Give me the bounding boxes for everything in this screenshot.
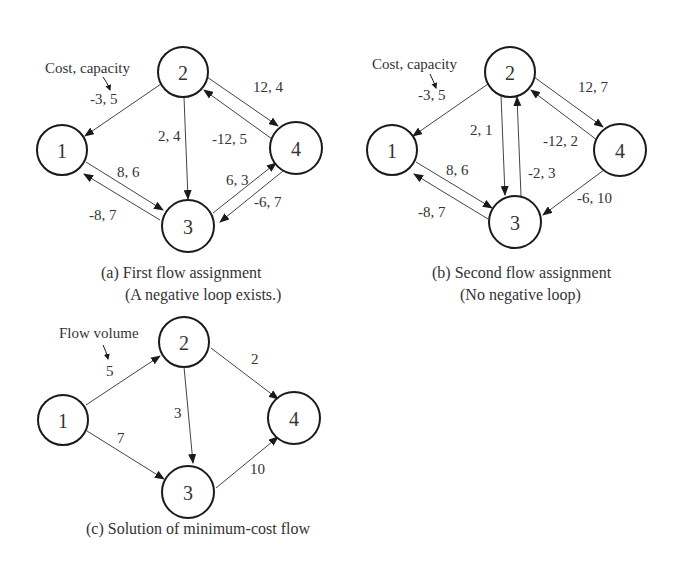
svg-text:3: 3	[183, 482, 193, 504]
svg-text:1: 1	[58, 410, 68, 432]
edge-c-1-3	[87, 431, 164, 479]
caption-a-line2: (A negative loop exists.)	[125, 286, 281, 304]
edge-label-b-4-2: -12, 2	[543, 133, 578, 149]
node-b-3: 3	[489, 196, 541, 248]
caption-b-line1: (b) Second flow assignment	[432, 264, 612, 282]
edge-c-2-4	[211, 348, 278, 399]
svg-text:3: 3	[510, 212, 520, 234]
edge-label-a-2-3: 2, 4	[158, 128, 181, 144]
node-b-1: 1	[367, 125, 417, 175]
node-c-1: 1	[38, 395, 88, 445]
svg-text:4: 4	[615, 140, 625, 162]
edge-label-a-2-4: 12, 4	[253, 79, 284, 95]
svg-text:3: 3	[183, 216, 193, 238]
edge-label-a-3-4: 6, 3	[226, 172, 249, 188]
svg-text:4: 4	[291, 138, 301, 160]
diagram-c: 1 2 3 4 Flow volume 5 7 3 2 10 (c) Solut…	[38, 317, 320, 538]
node-a-4: 4	[270, 122, 322, 174]
svg-text:2: 2	[179, 332, 189, 354]
annotation-a-pointer	[103, 77, 110, 90]
edge-b-3-2	[517, 97, 521, 196]
svg-text:2: 2	[505, 62, 515, 84]
edge-label-a-3-1: -8, 7	[89, 207, 117, 223]
edge-c-1-2	[86, 356, 160, 405]
annotation-c-pointer	[103, 345, 108, 359]
edge-label-c-1-3: 7	[117, 430, 125, 446]
node-a-3: 3	[162, 200, 214, 252]
edge-label-a-4-3: -6, 7	[254, 194, 282, 210]
edge-label-b-2-3: 2, 1	[470, 122, 493, 138]
node-b-2: 2	[485, 47, 535, 97]
edge-label-b-2-4: 12, 7	[578, 79, 609, 95]
annotation-a: Cost, capacity	[45, 60, 130, 76]
edge-b-2-3	[501, 95, 505, 195]
node-c-4: 4	[268, 392, 320, 444]
edge-label-b-3-2: -2, 3	[528, 165, 556, 181]
min-cost-flow-figure: 1 2 3 4 Cost, capacity -3, 5 2, 4 12, 4 …	[0, 0, 681, 570]
edge-c-2-3	[184, 367, 193, 463]
caption-c-line1: (c) Solution of minimum-cost flow	[86, 520, 310, 538]
edge-label-b-1-3: 8, 6	[446, 162, 469, 178]
edge-label-c-1-2: 5	[106, 363, 114, 379]
edge-c-3-4	[216, 437, 278, 488]
edge-label-c-3-4: 10	[250, 461, 265, 477]
node-a-2: 2	[158, 47, 208, 97]
edge-label-a-4-2: -12, 5	[212, 131, 247, 147]
diagram-a: 1 2 3 4 Cost, capacity -3, 5 2, 4 12, 4 …	[37, 47, 322, 304]
svg-text:1: 1	[387, 140, 397, 162]
annotation-c: Flow volume	[59, 325, 139, 341]
edge-label-b-4-3: -6, 10	[577, 190, 612, 206]
node-c-3: 3	[162, 466, 214, 518]
annotation-b: Cost, capacity	[372, 56, 457, 72]
node-b-4: 4	[594, 124, 646, 176]
svg-text:4: 4	[289, 408, 299, 430]
diagram-b: 1 2 3 4 Cost, capacity -3, 5 2, 1 -2, 3 …	[367, 47, 646, 304]
node-a-1: 1	[37, 125, 87, 175]
node-c-2: 2	[159, 317, 209, 367]
edge-label-c-2-4: 2	[251, 351, 259, 367]
annotation-b-pointer	[430, 74, 436, 88]
edge-a-2-3	[184, 97, 188, 199]
edge-label-b-2-1: -3, 5	[418, 87, 446, 103]
svg-text:1: 1	[57, 140, 67, 162]
edge-label-a-2-1: -3, 5	[90, 91, 118, 107]
edge-label-b-3-1: -8, 7	[418, 204, 446, 220]
caption-a-line1: (a) First flow assignment	[101, 264, 262, 282]
caption-b-line2: (No negative loop)	[460, 286, 581, 304]
svg-text:2: 2	[178, 62, 188, 84]
edge-label-c-2-3: 3	[174, 405, 182, 421]
edge-label-a-1-3: 8, 6	[117, 164, 140, 180]
